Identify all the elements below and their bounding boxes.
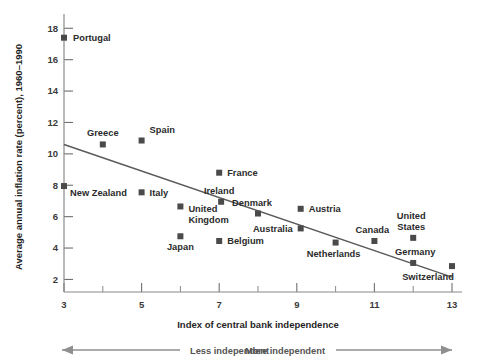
data-marker — [216, 170, 222, 176]
data-marker — [139, 189, 145, 195]
data-point-label: United — [188, 204, 217, 214]
y-tick-label: 10 — [47, 148, 58, 159]
data-point-label: Italy — [150, 188, 169, 198]
data-marker — [449, 263, 455, 269]
data-point-label: Netherlands — [307, 249, 361, 259]
y-tick-label: 8 — [53, 180, 58, 191]
data-marker — [61, 183, 67, 189]
x-axis-ticks: 35791113 — [61, 283, 457, 310]
data-point-label: Belgium — [227, 236, 264, 246]
scatter-chart: 24681012141618 35791113 PortugalGreeceSp… — [0, 0, 490, 362]
data-point-label: States — [397, 222, 425, 232]
y-tick-label: 16 — [47, 54, 58, 65]
x-tick-label: 3 — [61, 299, 66, 310]
data-point-label: Kingdom — [188, 215, 228, 225]
y-tick-label: 4 — [53, 242, 59, 253]
data-marker — [100, 141, 106, 147]
plot-area: 24681012141618 35791113 PortugalGreeceSp… — [0, 0, 490, 362]
data-marker — [216, 238, 222, 244]
data-point-label: Greece — [87, 128, 119, 138]
data-point-label: Austria — [309, 204, 342, 214]
data-marker — [177, 233, 183, 239]
data-point-label: France — [227, 168, 258, 178]
y-tick-label: 2 — [53, 274, 58, 285]
y-axis-title: Average annual inflation rate (percent),… — [13, 44, 24, 270]
data-marker — [218, 199, 224, 205]
data-marker — [410, 235, 416, 241]
data-marker — [371, 238, 377, 244]
data-point-label: Spain — [150, 125, 176, 135]
x-axis-title: Index of central bank independence — [177, 319, 339, 330]
more-independent-arrowhead — [441, 346, 452, 355]
data-marker — [61, 35, 67, 41]
x-tick-label: 5 — [139, 299, 145, 310]
data-point-label: Australia — [253, 224, 294, 234]
data-point-label: New Zealand — [70, 188, 127, 198]
data-point-label: Japan — [167, 242, 194, 252]
y-axis-ticks: 24681012141618 — [47, 23, 73, 285]
data-point-label: Switzerland — [402, 272, 454, 282]
less-independent-arrowhead — [62, 346, 73, 355]
data-point-labels: PortugalGreeceSpainNew ZealandItalyFranc… — [70, 33, 454, 282]
data-point-label: United — [397, 211, 426, 221]
y-tick-label: 14 — [47, 85, 58, 96]
x-tick-label: 13 — [447, 299, 458, 310]
more-independent-label: More independent — [245, 346, 325, 356]
data-markers — [61, 35, 455, 269]
data-point-label: Canada — [356, 225, 390, 235]
x-tick-label: 7 — [217, 299, 222, 310]
y-tick-label: 18 — [47, 23, 58, 34]
y-tick-label: 12 — [47, 117, 58, 128]
data-marker — [255, 211, 261, 217]
x-tick-label: 9 — [294, 299, 299, 310]
y-tick-label: 6 — [53, 211, 58, 222]
data-marker — [298, 206, 304, 212]
data-point-label: Denmark — [232, 198, 273, 208]
data-marker — [298, 225, 304, 231]
data-marker — [333, 240, 339, 246]
x-tick-label: 11 — [369, 299, 380, 310]
data-point-label: Ireland — [204, 186, 235, 196]
data-point-label: Germany — [395, 247, 436, 257]
data-marker — [177, 203, 183, 209]
data-marker — [139, 138, 145, 144]
data-marker — [410, 260, 416, 266]
data-point-label: Portugal — [73, 33, 111, 43]
axis-direction-annotations: Less independentMore independent — [62, 346, 452, 356]
